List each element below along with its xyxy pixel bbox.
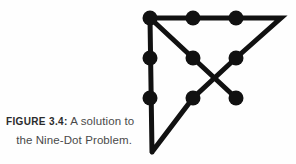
solution-lines [150,18,281,152]
dot-r2c3 [229,51,244,66]
dot-r1c2 [186,11,201,26]
caption-line-1-text: A solution to [68,115,135,127]
caption-line-2: the Nine-Dot Problem. [6,131,132,149]
caption-line-1: FIGURE 3.4: A solution to [6,112,132,131]
dot-r2c1 [143,51,158,66]
dot-r1c3 [229,11,244,26]
dot-r3c3 [229,91,244,106]
dot-r3c1 [143,91,158,106]
dot-r3c2 [186,91,201,106]
figure-page: FIGURE 3.4: A solution to the Nine-Dot P… [0,0,296,164]
dot-r2c2 [186,51,201,66]
figure-number-label: FIGURE 3.4: [6,116,68,127]
dot-r1c1 [143,11,158,26]
figure-caption: FIGURE 3.4: A solution to the Nine-Dot P… [6,112,132,149]
